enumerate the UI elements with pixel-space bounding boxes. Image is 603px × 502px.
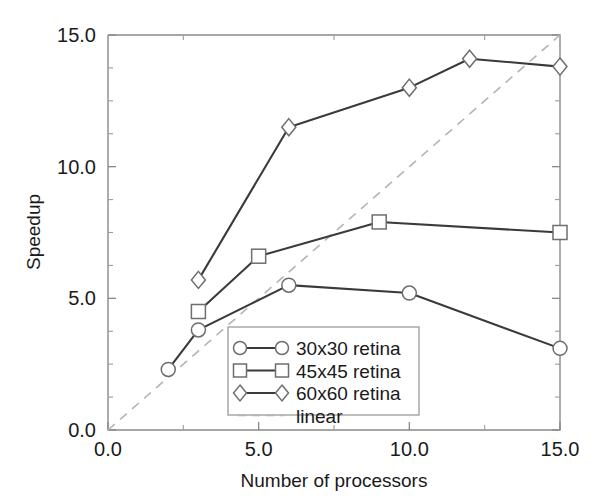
- y-tick-label: 5.0: [68, 287, 96, 309]
- circle-marker: [276, 342, 289, 355]
- circle-marker: [234, 342, 247, 355]
- legend-label: 60x60 retina: [296, 383, 401, 404]
- speedup-chart-figure: 0.05.010.015.00.05.010.015.0 Number of p…: [0, 0, 603, 502]
- square-marker: [234, 364, 247, 377]
- x-tick-label: 5.0: [245, 438, 273, 460]
- x-tick-label: 0.0: [94, 438, 122, 460]
- y-tick-label: 15.0: [57, 24, 96, 46]
- square-marker: [553, 226, 567, 240]
- x-tick-label: 10.0: [390, 438, 429, 460]
- legend-label: 30x30 retina: [296, 338, 401, 359]
- circle-marker: [161, 362, 175, 376]
- legend-label: 45x45 retina: [296, 361, 401, 382]
- y-tick-label: 10.0: [57, 156, 96, 178]
- legend-label: linear: [296, 406, 343, 427]
- x-tick-label: 15.0: [541, 438, 580, 460]
- y-tick-label: 0.0: [68, 419, 96, 441]
- chart-canvas: 0.05.010.015.00.05.010.015.0 Number of p…: [0, 0, 603, 502]
- x-axis-title: Number of processors: [241, 470, 428, 491]
- square-marker: [252, 249, 266, 263]
- circle-marker: [191, 323, 205, 337]
- square-marker: [372, 215, 386, 229]
- circle-marker: [282, 278, 296, 292]
- circle-marker: [402, 286, 416, 300]
- chart-legend: 30x30 retina45x45 retina60x60 retinaline…: [228, 327, 419, 427]
- y-axis-title: Speedup: [23, 194, 44, 270]
- square-marker: [191, 305, 205, 319]
- square-marker: [276, 364, 289, 377]
- circle-marker: [553, 341, 567, 355]
